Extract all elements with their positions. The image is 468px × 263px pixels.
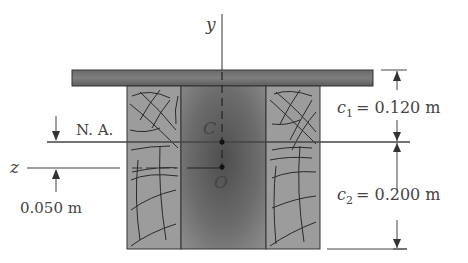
- c1-symbol: c: [337, 98, 346, 117]
- c2-subscript: 2: [346, 194, 353, 207]
- dimension-lines: [327, 70, 407, 249]
- offset-dimension-label: 0.050 m: [20, 199, 82, 217]
- right-wood-panel: [266, 86, 320, 249]
- c2-value: = 0.200 m: [356, 185, 441, 204]
- y-axis-label: y: [205, 14, 216, 34]
- origin-label: O: [214, 172, 228, 192]
- y-axis: y: [205, 14, 222, 70]
- centroid-label: C: [203, 118, 216, 138]
- c1-dimension-label: c1= 0.120 m: [337, 98, 441, 120]
- z-axis-label: z: [9, 157, 20, 177]
- c1-subscript: 1: [346, 107, 353, 120]
- neutral-axis-label: N. A.: [76, 121, 113, 139]
- svg-text:c1= 0.120 m: c1= 0.120 m: [337, 98, 441, 120]
- c2-dimension-label: c2= 0.200 m: [337, 185, 441, 207]
- composite-beam-figure: y: [0, 0, 468, 263]
- svg-text:c2= 0.200 m: c2= 0.200 m: [337, 185, 441, 207]
- c2-symbol: c: [337, 185, 346, 204]
- c1-value: = 0.120 m: [356, 98, 441, 117]
